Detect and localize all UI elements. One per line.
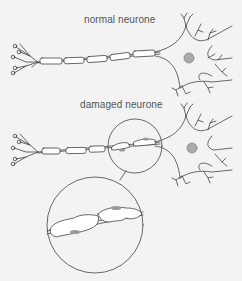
nucleus	[184, 53, 194, 63]
myelin-sheath	[42, 139, 156, 154]
damaged-neurone	[11, 103, 232, 186]
dendrites	[172, 103, 232, 186]
magnify-connector	[120, 171, 126, 180]
neurone-diagram	[0, 0, 242, 281]
axon-terminal	[11, 44, 38, 75]
damage-spot	[111, 206, 121, 210]
myelin-sheath	[40, 50, 155, 64]
dendrites	[172, 13, 232, 96]
nucleus	[187, 143, 197, 153]
normal-neurone	[11, 13, 232, 96]
axon-terminal	[11, 134, 38, 166]
damage-spot	[143, 138, 149, 141]
magnified-view	[47, 177, 143, 273]
